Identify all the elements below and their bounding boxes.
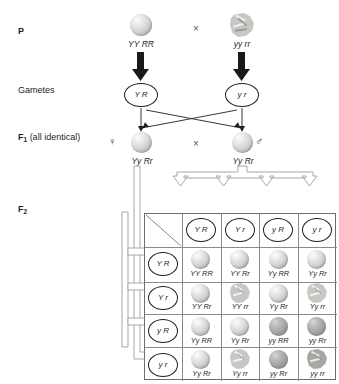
punnett-seed-0-3 <box>307 250 326 269</box>
punnett-cell-0-3-label: Yy Rr <box>298 270 337 277</box>
punnett-col-header-3-label: y r <box>313 226 322 234</box>
dihybrid-cross-diagram: P Gametes F1 (all identical) F2 YY RR × … <box>0 0 339 384</box>
punnett-col-header-0-label: Y R <box>194 226 207 234</box>
punnett-cell-2-0-label: Yy RR <box>182 337 221 344</box>
punnett-row-header-3-label: y r <box>159 361 168 369</box>
punnett-row-header-1-label: Y r <box>158 294 168 302</box>
punnett-cell-3-1-label: Yy rr <box>221 370 259 377</box>
punnett-cell-2-2-label: yy RR <box>259 337 298 344</box>
punnett-cell-1-0-label: YY Rr <box>182 303 221 310</box>
punnett-seed-3-2 <box>269 350 288 369</box>
punnett-cell-2-1-label: Yy Rr <box>221 337 259 344</box>
punnett-cell-1-1-label: YY rr <box>221 303 259 310</box>
punnett-cell-0-2-label: Yy RR <box>259 270 298 277</box>
punnett-row-header-0-label: Y R <box>156 260 169 268</box>
corner-diagonal-line <box>146 215 181 246</box>
punnett-cell-1-3-label: Yy rr <box>298 303 337 310</box>
punnett-cell-3-2-label: yy Rr <box>259 370 298 377</box>
punnett-col-header-2-label: y R <box>272 226 284 234</box>
punnett-cell-2-3-label: yy Rr <box>298 337 337 344</box>
punnett-row-header-0: Y R <box>148 252 178 276</box>
punnett-cell-0-1-label: YY Rr <box>221 270 259 277</box>
punnett-col-header-1-label: Y r <box>235 226 245 234</box>
punnett-row-header-1: Y r <box>148 286 178 310</box>
punnett-cell-3-0-label: Yy Rr <box>182 370 221 377</box>
punnett-col-header-1: Y r <box>225 218 255 242</box>
top-manifold-arrow <box>173 166 317 186</box>
punnett-row-header-2-label: y R <box>157 327 169 335</box>
punnett-seed-2-1 <box>230 317 249 336</box>
punnett-seed-1-0 <box>191 284 210 303</box>
punnett-cell-0-0-label: YY RR <box>182 270 221 277</box>
punnett-col-header-2: y R <box>263 218 293 242</box>
punnett-seed-0-2 <box>269 250 288 269</box>
punnett-col-header-3: y r <box>302 218 332 242</box>
punnett-seed-0-1 <box>230 250 249 269</box>
punnett-seed-0-0 <box>191 250 210 269</box>
punnett-row-header-2: y R <box>148 319 178 343</box>
left-manifold-inner-spine <box>122 212 128 347</box>
punnett-seed-3-0 <box>191 350 210 369</box>
punnett-seed-2-3 <box>307 317 326 336</box>
punnett-col-header-0: Y R <box>186 218 216 242</box>
punnett-seed-1-2 <box>269 284 288 303</box>
punnett-seed-2-0 <box>191 317 210 336</box>
punnett-square: Y R Y r y R y r Y R Y r y R y r YY RR YY… <box>144 213 336 380</box>
punnett-row-header-3: y r <box>148 353 178 377</box>
punnett-seed-2-2 <box>269 317 288 336</box>
punnett-cell-1-2-label: Yy Rr <box>259 303 298 310</box>
punnett-cell-3-3-label: yy rr <box>298 370 337 377</box>
